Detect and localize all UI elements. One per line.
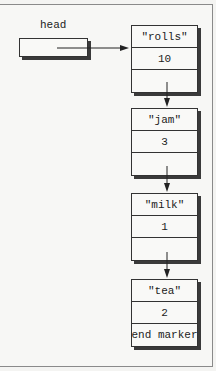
- node-quantity-cell: 3: [132, 131, 197, 153]
- node-name-cell: "rolls": [132, 26, 197, 48]
- node-quantity-cell: 10: [132, 48, 197, 70]
- list-node-jam: "jam" 3: [131, 108, 198, 176]
- list-node-tea: "tea" 2 end marker: [131, 279, 198, 347]
- node-next-cell: [132, 153, 197, 175]
- node-name-cell: "jam": [132, 109, 197, 131]
- head-pointer-box: [19, 38, 88, 57]
- node-quantity-cell: 1: [132, 216, 197, 238]
- node-next-cell: [132, 238, 197, 260]
- node-name-cell: "milk": [132, 194, 197, 216]
- node-name-cell: "tea": [132, 280, 197, 302]
- list-node-milk: "milk" 1: [131, 193, 198, 261]
- list-node-rolls: "rolls" 10: [131, 25, 198, 93]
- head-label: head: [40, 19, 66, 32]
- node-end-marker-cell: end marker: [132, 324, 197, 346]
- node-quantity-cell: 2: [132, 302, 197, 324]
- node-next-cell: [132, 70, 197, 92]
